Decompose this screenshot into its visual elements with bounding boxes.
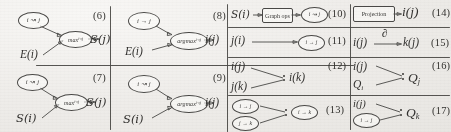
relation-node-label: i → j (137, 18, 151, 25)
input-term: S(i) (16, 111, 37, 125)
panel-number: (11) (328, 35, 346, 46)
output-term: i(j) (205, 96, 219, 108)
panel-number: (6) (93, 10, 106, 21)
relation-node[interactable]: i ↝ j (17, 74, 48, 91)
panel-number: (9) (213, 72, 226, 83)
relation-node[interactable]: i → j (128, 12, 160, 30)
panel-number: (16) (432, 60, 450, 71)
relation-node-label: i → k (298, 110, 311, 116)
merge-dot-lower (402, 78, 404, 80)
panel-number: (17) (432, 105, 450, 116)
output-term: k(j) (403, 36, 419, 48)
output-term: Qj (408, 70, 420, 86)
panel-number: (10) (328, 8, 346, 19)
output-term: i(j) (205, 33, 219, 45)
panel-7: i ↝ j maxi↝j S(i) S(j) (7) (0, 66, 110, 132)
input-term: j(i) (231, 34, 245, 46)
relation-node[interactable]: i → j (353, 113, 380, 128)
relation-node-label: i ↝ j (137, 81, 150, 88)
merge-dot-upper (283, 75, 285, 77)
merge-dot-upper (402, 73, 404, 75)
operator-node[interactable]: maxi↝j (59, 31, 92, 48)
input-term: S(i) (123, 112, 144, 126)
panel-15: i(j) ∂ k(j) (15) (352, 28, 451, 57)
merge-dot-lower (285, 114, 287, 116)
input-term: j(k) (231, 80, 247, 92)
operator-node-subscript: i↝j (196, 102, 201, 106)
relation-node-label: i ↝ j (27, 17, 40, 24)
panel-number: (15) (431, 37, 449, 48)
operator-node[interactable]: argmaxi↝j (170, 95, 208, 113)
operator-node-label: argmax (177, 38, 196, 44)
operator-node-label: argmax (177, 101, 196, 107)
panel-number: (8) (213, 10, 226, 21)
panel-9: i ↝ j argmaxi↝j S(i) i(j) (9) (112, 66, 227, 132)
panel-number: (7) (93, 72, 106, 83)
projection-box[interactable]: Projection (353, 6, 395, 22)
operator-node-subscript: i↝j (196, 39, 201, 43)
operator-node-subscript: i↝j (78, 38, 83, 42)
relation-node-label: j → k (239, 121, 252, 127)
projection-box-label: Projection (362, 11, 387, 17)
panel-number: (14) (432, 7, 450, 18)
relation-node-label: i ↝ j (309, 12, 320, 18)
panel-number: (12) (328, 60, 346, 71)
relation-node[interactable]: i ↝ j (301, 7, 328, 23)
relation-node-label: i → j (361, 118, 373, 124)
panel-10: S(i) Graph ops i ↝ j (10) (229, 0, 350, 27)
input-term: i(j) (353, 36, 367, 48)
merge-dot-lower (400, 114, 402, 116)
panel-number: (13) (326, 104, 344, 115)
relation-node[interactable]: i ↝ j (128, 75, 160, 93)
panel-8: i → j argmaxi↝j E(i) i(j) (8) (112, 0, 227, 65)
panel-6: i ↝ j maxi↝j E(i) S(j) (6) (0, 0, 110, 65)
figure-sheet: i ↝ j maxi↝j E(i) S(j) (6) i ↝ j maxi↝j (0, 0, 451, 132)
output-term: i(k) (289, 71, 305, 83)
graph-box-label: Graph ops (265, 13, 290, 19)
relation-node-label: i → j (240, 104, 252, 110)
input-term: S(i) (231, 8, 250, 20)
operator-node-label: max (64, 100, 74, 106)
merge-dot-upper (285, 109, 287, 111)
panel-16: i(j) Qi Qj (16) (352, 58, 451, 95)
relation-node[interactable]: i → j (232, 99, 259, 114)
operator-node[interactable]: argmaxi↝j (170, 32, 208, 50)
relation-node-label: i → j (306, 40, 318, 46)
panel-13: i → j j → k i → k (13) (229, 96, 350, 132)
edge-label: ∂ (382, 28, 388, 39)
relation-node[interactable]: i → k (291, 105, 318, 120)
output-term: S(j) (86, 95, 106, 109)
output-term: Qk (406, 105, 419, 121)
operator-node[interactable]: maxi↝j (55, 94, 88, 111)
panel-14: Projection i(j) (14) (352, 0, 451, 27)
input-term: i(j) (353, 60, 367, 72)
relation-node[interactable]: j → k (232, 116, 259, 131)
operator-node-label: max (68, 37, 78, 43)
input-term: i(j) (231, 60, 245, 72)
relation-node-label: i ↝ j (26, 79, 39, 86)
operator-node-subscript: i↝j (74, 101, 79, 105)
input-term: i(j) (353, 98, 366, 109)
relation-node[interactable]: i → j (298, 35, 325, 51)
relation-node[interactable]: i ↝ j (18, 12, 49, 29)
panel-12: i(j) j(k) i(k) (12) (229, 58, 350, 95)
graph-box[interactable]: Graph ops (262, 8, 293, 23)
merge-dot-upper (400, 109, 402, 111)
panel-11: j(i) i → j (11) (229, 28, 350, 57)
input-term: Qi (353, 78, 363, 92)
input-term: E(i) (125, 45, 143, 57)
output-term: S(j) (90, 32, 110, 46)
panel-17: i(j) i → j Qk (17) (352, 96, 451, 132)
input-term: E(i) (20, 48, 38, 60)
output-term: i(j) (402, 4, 419, 20)
merge-dot-lower (283, 79, 285, 81)
